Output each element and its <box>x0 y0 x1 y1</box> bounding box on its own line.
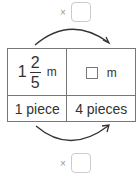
top-arrow-icon <box>35 29 108 45</box>
bottom-multiplier: × <box>57 153 91 173</box>
unit-label: m <box>47 65 57 79</box>
cell-pieces-1: 1 piece <box>8 96 67 122</box>
denominator: 5 <box>31 74 40 91</box>
ratio-table: 1 2 5 m m 1 piece 4 pieces <box>7 48 136 122</box>
bottom-arrow-icon <box>36 126 108 141</box>
fraction-bar <box>30 72 41 73</box>
times-icon: × <box>57 158 69 169</box>
cell-length-4: m <box>67 49 136 96</box>
unit-label: m <box>107 66 117 80</box>
numerator: 2 <box>31 54 40 71</box>
cell-pieces-4: 4 pieces <box>67 96 136 122</box>
cell-length-1: 1 2 5 m <box>8 49 67 96</box>
blank-answer-box[interactable] <box>86 67 98 79</box>
bottom-answer-box[interactable] <box>71 153 91 173</box>
mixed-fraction: 1 2 5 m <box>18 54 57 91</box>
